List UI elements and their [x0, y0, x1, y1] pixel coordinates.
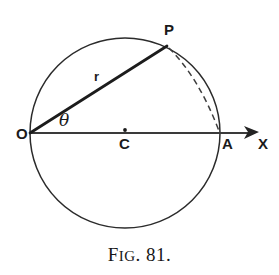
label-center-c: C: [119, 136, 130, 151]
caption-prefix: F: [108, 244, 119, 265]
label-origin-o: O: [16, 126, 28, 141]
caption-suffix: . 81.: [136, 244, 172, 265]
label-point-p: P: [164, 22, 174, 37]
caption-smallcaps: IG: [119, 248, 136, 264]
label-angle-theta: θ: [59, 112, 69, 129]
figure-container: O P C A X r θ FIG. 81.: [0, 0, 279, 275]
geometry-diagram-canvas: [0, 0, 279, 275]
center-point-dot: [123, 128, 127, 132]
label-axis-x: X: [258, 136, 268, 151]
label-radius-r: r: [94, 70, 99, 83]
dashed-chord-pa: [169, 48, 219, 131]
label-point-a: A: [222, 136, 233, 151]
figure-caption: FIG. 81.: [0, 244, 279, 266]
radius-vector-line: [30, 46, 167, 133]
